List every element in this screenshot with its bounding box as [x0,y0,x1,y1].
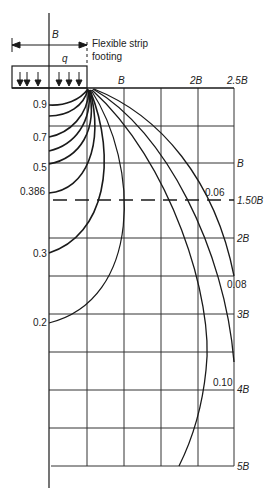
isobar-label-0.9: 0.9 [33,99,47,110]
isobar-label-0.3: 0.3 [33,248,47,259]
right-tick-2B: 2B [236,233,250,244]
isobar-label-0.10: 0.10 [213,377,233,388]
footing-width-label: B [52,29,59,40]
isobar-0.08 [93,89,234,362]
title-line2: footing [92,51,122,62]
isobar-label-0.06: 0.06 [205,187,225,198]
right-tick-4B: 4B [237,384,250,395]
right-tick-1-5B: 1.50B [237,195,263,206]
right-tick-5B: 5B [237,461,250,472]
right-tick-3B: 3B [237,309,250,320]
right-tick-B: B [237,158,244,169]
top-tick-2B: 2B [189,75,203,86]
load-label: q [62,53,68,64]
stress-isobar-diagram: B q Flexible strip footing B 2B 2.5B B 1… [0,0,277,503]
top-tick-B: B [118,75,125,86]
isobar-label-0.2: 0.2 [33,317,47,328]
isobar-label-0.7: 0.7 [33,132,47,143]
isobar-curves [49,89,234,466]
isobar-0.10 [92,90,207,466]
isobar-0.7 [49,90,89,137]
isobar-0.3 [49,90,104,253]
top-tick-2-5B: 2.5B [226,75,248,86]
isobar-0.06 [94,89,234,276]
isobar-label-0.08: 0.08 [227,279,247,290]
title-line1: Flexible strip [92,38,149,49]
isobar-label-0.5: 0.5 [33,162,47,173]
grid [49,88,234,466]
isobar-label-0.386: 0.386 [20,186,45,197]
